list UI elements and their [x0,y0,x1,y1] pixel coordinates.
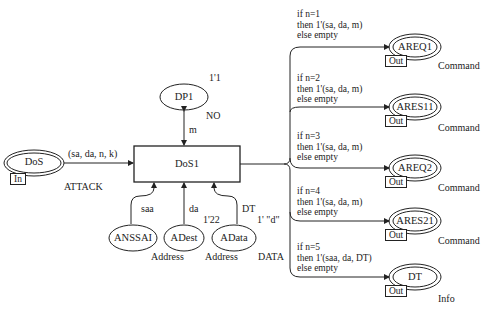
type-info: Info [438,293,455,304]
type-no: NO [206,110,220,121]
cond-line: then 1'(sa, da, m) [297,197,362,207]
cond-line: then 1'(sa, da, m) [297,142,362,152]
place-areq1-label: AREQ1 [393,41,437,52]
cond-line: then 1'(saa, da, DT) [297,253,372,263]
cond-line: if n=4 [297,186,320,196]
type-address-adata: Address [205,251,238,262]
cond-1: if n=2then 1'(sa, da, m)else empty [297,73,362,105]
cond-line: then 1'(sa, da, m) [297,20,362,30]
port-out: Out [385,176,407,188]
type-data: DATA [258,251,284,262]
cond-line: else empty [297,94,338,104]
port-out: Out [385,55,407,67]
cond-line: else empty [297,30,338,40]
port-out: Out [385,229,407,241]
cond-4: if n=5then 1'(saa, da, DT)else empty [297,242,372,274]
type-command: Command [438,60,480,71]
type-command: Command [438,122,480,133]
cond-line: if n=2 [297,73,320,83]
type-command: Command [438,182,480,193]
cond-line: else empty [297,207,338,217]
cond-line: if n=1 [297,9,320,19]
arc-dp1-inscription: m [189,124,197,135]
arc-anssai-inscription: saa [141,203,154,214]
arc-adest-inscription: da [189,203,198,214]
place-adest-label: ADest [164,232,204,243]
cond-0: if n=1then 1'(sa, da, m)else empty [297,9,362,41]
marking-adest: 1'22 [203,214,220,225]
cond-line: else empty [297,152,338,162]
place-dt-label: DT [393,271,437,282]
type-attack: ATTACK [64,181,103,192]
cond-line: if n=5 [297,242,320,252]
type-address-adest: Address [151,251,184,262]
place-dos-label: DoS [14,156,54,167]
cond-3: if n=4then 1'(sa, da, m)else empty [297,186,362,218]
type-command: Command [438,235,480,246]
cond-2: if n=3then 1'(sa, da, m)else empty [297,131,362,163]
arc-adata-inscription: DT [242,203,255,214]
port-in: In [10,173,26,185]
marking-adata: 1' "d" [257,214,279,225]
cond-line: else empty [297,263,338,273]
transition-dos1: DoS1 [134,158,240,169]
place-ares21-label: ARES21 [393,215,437,226]
cond-line: if n=3 [297,131,320,141]
cond-line: then 1'(sa, da, m) [297,84,362,94]
petri-net-diagram: DoS In ATTACK (sa, da, n, k) DoS1 DP1 1'… [0,0,495,313]
place-dp1-label: DP1 [160,91,208,102]
port-out: Out [385,115,407,127]
arc-dos-inscription: (sa, da, n, k) [68,148,117,159]
place-adata-label: AData [212,232,256,243]
place-anssai-label: ANSSAI [109,232,157,243]
place-areq2-label: AREQ2 [393,162,437,173]
port-out: Out [385,285,407,297]
place-ares11-label: ARES11 [393,101,437,112]
marking-dp1: 1'1 [209,72,221,83]
